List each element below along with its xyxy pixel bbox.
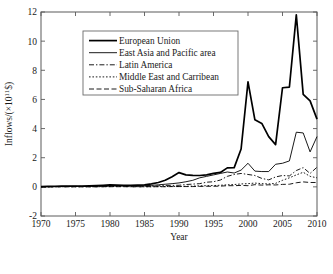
y-tick-label: -2	[29, 211, 37, 221]
chart-legend[interactable]: European UnionEast Asia and Pacific area…	[83, 31, 238, 95]
x-tick-label: 2000	[239, 219, 258, 229]
y-tick-label: 4	[32, 124, 37, 134]
x-tick-label: 1980	[101, 219, 120, 229]
y-tick-label: 0	[32, 182, 37, 192]
chart-figure: 197019751980198519901995200020052010-202…	[0, 0, 333, 274]
x-tick-label: 2010	[308, 219, 327, 229]
legend-label: Latin America	[119, 60, 172, 70]
legend-label: Middle East and Carribean	[119, 72, 219, 82]
x-axis-title: Year	[170, 232, 188, 242]
y-tick-label: 12	[28, 7, 38, 17]
line-chart: 197019751980198519901995200020052010-202…	[0, 0, 333, 274]
legend-label: European Union	[119, 36, 181, 46]
legend-label: East Asia and Pacific area	[119, 48, 216, 58]
y-tick-label: 6	[32, 95, 37, 105]
x-tick-label: 1985	[135, 219, 154, 229]
x-tick-label: 1975	[66, 219, 85, 229]
y-tick-label: 2	[32, 153, 37, 163]
x-tick-label: 1995	[204, 219, 223, 229]
y-tick-label: 10	[28, 37, 38, 47]
legend-label: Sub-Saharan Africa	[119, 84, 192, 94]
x-tick-label: 1990	[170, 219, 189, 229]
x-tick-label: 2005	[273, 219, 292, 229]
y-tick-label: 8	[32, 66, 37, 76]
